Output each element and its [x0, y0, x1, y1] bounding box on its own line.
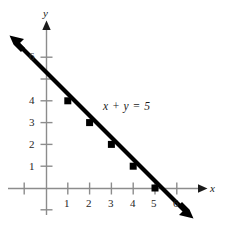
- y-axis-label: y: [43, 8, 48, 19]
- y-tick-label-3: 3: [29, 117, 35, 128]
- x-axis-label: x: [210, 183, 215, 194]
- x-axis-arrowhead: [198, 184, 208, 192]
- y-tick-label-6: 6: [29, 51, 35, 62]
- x-axis: [8, 184, 208, 192]
- y-axis: [42, 21, 50, 216]
- y-tick-label-4: 4: [29, 95, 35, 106]
- x-tick-label-4: 4: [130, 198, 136, 209]
- x-tick-label-2: 2: [86, 198, 92, 209]
- line-graph-figure: x y 1 2 3 4 5 6 1 2 3 4 6 x + y = 5: [0, 0, 229, 241]
- data-point-5-0: [152, 185, 159, 192]
- line-arrowhead-lower-right: [178, 202, 194, 219]
- x-tick-label-3: 3: [108, 198, 114, 209]
- data-point-2-3: [86, 119, 93, 126]
- y-tick-label-2: 2: [29, 139, 35, 150]
- data-point-3-2: [108, 141, 115, 148]
- data-point-1-4: [64, 97, 71, 104]
- y-axis-arrowhead: [42, 21, 50, 31]
- equation-line: [16, 42, 187, 213]
- line-arrowhead-upper-left: [10, 36, 26, 53]
- equation-annotation: x + y = 5: [103, 101, 150, 113]
- x-tick-label-5: 5: [151, 198, 157, 209]
- data-point-4-1: [130, 163, 137, 170]
- equation-line-group: [10, 36, 194, 219]
- x-tick-label-6: 6: [173, 198, 179, 209]
- x-tick-label-1: 1: [64, 198, 70, 209]
- y-tick-label-1: 1: [29, 161, 35, 172]
